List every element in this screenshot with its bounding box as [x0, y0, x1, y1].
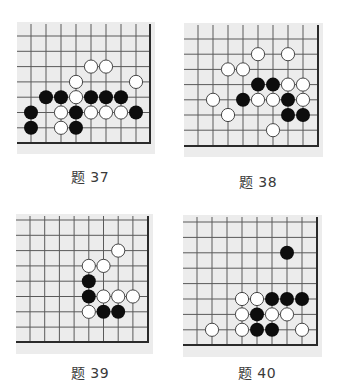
black-stone-icon: [251, 78, 265, 92]
black-stone-icon: [250, 323, 264, 337]
black-stone-icon: [24, 106, 38, 120]
white-stone-icon: [221, 63, 234, 76]
white-stone-icon: [97, 290, 110, 303]
white-stone-icon: [251, 93, 264, 106]
black-stone-icon: [99, 90, 113, 104]
black-stone-icon: [266, 78, 280, 92]
white-stone-icon: [281, 78, 294, 91]
black-stone-icon: [39, 90, 53, 104]
white-stone-icon: [126, 290, 139, 303]
black-stone-icon: [295, 292, 309, 306]
white-stone-icon: [84, 60, 97, 73]
black-stone-icon: [250, 307, 264, 321]
black-stone-icon: [82, 274, 96, 288]
white-stone-icon: [112, 290, 125, 303]
black-stone-icon: [281, 108, 295, 122]
black-stone-icon: [280, 292, 294, 306]
white-stone-icon: [129, 75, 142, 88]
problem-38-caption: 题 38: [218, 174, 298, 190]
black-stone-icon: [281, 93, 295, 107]
white-stone-icon: [99, 106, 112, 119]
white-stone-icon: [280, 308, 293, 321]
black-stone-icon: [111, 305, 125, 319]
black-stone-icon: [280, 246, 294, 260]
white-stone-icon: [265, 308, 278, 321]
go-board-39: [16, 214, 153, 354]
problem-37-caption: 题 37: [50, 169, 130, 185]
black-stone-icon: [97, 305, 111, 319]
white-stone-icon: [112, 244, 125, 257]
black-stone-icon: [265, 323, 279, 337]
black-stone-icon: [265, 292, 279, 306]
white-stone-icon: [69, 75, 82, 88]
go-boards-canvas: [0, 0, 340, 384]
problem-40-caption: 题 40: [217, 365, 297, 381]
black-stone-icon: [82, 290, 96, 304]
white-stone-icon: [54, 106, 67, 119]
white-stone-icon: [114, 106, 127, 119]
white-stone-icon: [54, 121, 67, 134]
white-stone-icon: [84, 106, 97, 119]
white-stone-icon: [296, 78, 309, 91]
white-stone-icon: [69, 91, 82, 104]
white-stone-icon: [251, 48, 264, 61]
white-stone-icon: [82, 305, 95, 318]
problem-39-caption: 题 39: [50, 365, 130, 381]
white-stone-icon: [235, 308, 248, 321]
black-stone-icon: [69, 106, 83, 120]
white-stone-icon: [205, 323, 218, 336]
white-stone-icon: [250, 292, 263, 305]
white-stone-icon: [206, 93, 219, 106]
white-stone-icon: [97, 259, 110, 272]
black-stone-icon: [296, 108, 310, 122]
white-stone-icon: [82, 259, 95, 272]
white-stone-icon: [266, 124, 279, 137]
white-stone-icon: [281, 48, 294, 61]
white-stone-icon: [236, 63, 249, 76]
black-stone-icon: [69, 121, 83, 135]
white-stone-icon: [221, 108, 234, 121]
go-problems-page: 题 37 题 38 题 39 题 40: [0, 0, 340, 384]
black-stone-icon: [54, 90, 68, 104]
white-stone-icon: [266, 93, 279, 106]
black-stone-icon: [24, 121, 38, 135]
white-stone-icon: [295, 323, 308, 336]
go-board-37: [17, 22, 155, 154]
black-stone-icon: [236, 93, 250, 107]
black-stone-icon: [114, 90, 128, 104]
go-board-38: [184, 23, 323, 157]
white-stone-icon: [235, 323, 248, 336]
black-stone-icon: [129, 106, 143, 120]
white-stone-icon: [235, 292, 248, 305]
white-stone-icon: [296, 93, 309, 106]
black-stone-icon: [84, 90, 98, 104]
go-board-40: [183, 215, 322, 357]
white-stone-icon: [99, 60, 112, 73]
